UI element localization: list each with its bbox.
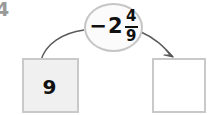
operation-expression: − 2 4 9 — [89, 9, 137, 44]
fraction-numerator: 4 — [126, 9, 136, 24]
number-machine-diagram: 4 − 2 4 9 9 — [0, 0, 209, 115]
fraction-denominator: 9 — [126, 29, 136, 44]
operation-bubble: − 2 4 9 — [84, 3, 143, 52]
fraction: 4 9 — [125, 9, 138, 44]
minus-sign-icon: − — [89, 16, 107, 37]
arrowhead-right-icon — [164, 50, 173, 57]
input-box-left[interactable]: 9 — [22, 58, 79, 113]
input-box-left-value: 9 — [43, 77, 57, 97]
answer-box-right[interactable] — [152, 58, 206, 113]
whole-number: 2 — [108, 16, 123, 37]
arrow-left-curve — [41, 30, 84, 60]
